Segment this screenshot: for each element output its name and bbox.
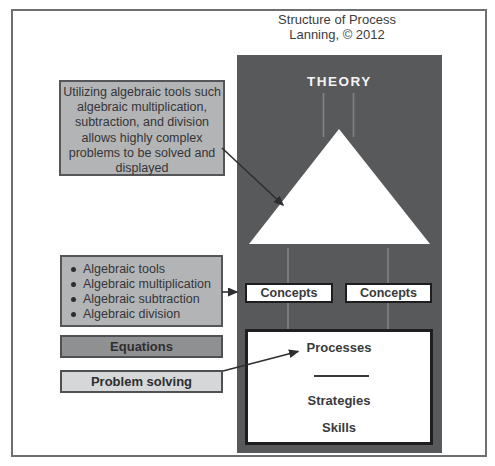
skills-label: Skills: [248, 420, 430, 435]
generalization-line: GENERALIZATION: [262, 214, 418, 228]
concepts-box-right: Concepts: [345, 283, 432, 303]
problem-solving-label: Problem solving: [91, 374, 192, 389]
concepts-left-label: Concepts: [261, 286, 318, 300]
callout-line-6: displayed: [61, 161, 223, 176]
bullet-icon: [71, 297, 76, 302]
bullet-icon: [71, 282, 76, 287]
algebra-bullet-list: Algebraic tools Algebraic multiplication…: [60, 255, 223, 327]
callout-line-4: allows highly complex: [61, 131, 223, 146]
principle-line: PRINCIPLE: [262, 200, 418, 214]
theory-label: THEORY: [237, 74, 442, 89]
list-item: Algebraic division: [71, 307, 221, 322]
process-box: Processes Strategies Skills: [245, 329, 433, 445]
callout-line-1: Utilizing algebraic tools such: [61, 85, 223, 100]
figure-title: Structure of Process Lanning, © 2012: [212, 12, 462, 42]
equations-bar: Equations: [60, 335, 223, 358]
callout-line-3: subtraction, and division: [61, 115, 223, 130]
algebra-callout-note: Utilizing algebraic tools such algebraic…: [59, 80, 225, 176]
callout-line-5: problems to be solved and: [61, 146, 223, 161]
problem-solving-bar: Problem solving: [60, 370, 223, 393]
bullet-text-3: Algebraic subtraction: [83, 292, 200, 307]
equations-label: Equations: [110, 339, 173, 354]
concepts-right-label: Concepts: [360, 286, 417, 300]
figure-title-line1: Structure of Process: [212, 12, 462, 27]
principle-generalization-label: PRINCIPLE GENERALIZATION: [262, 200, 418, 228]
strategies-label: Strategies: [248, 393, 430, 408]
list-item: Algebraic subtraction: [71, 292, 221, 307]
processes-label: Processes: [248, 340, 430, 355]
callout-line-2: algebraic multiplication,: [61, 100, 223, 115]
list-item: Algebraic tools: [71, 262, 221, 277]
figure-title-line2: Lanning, © 2012: [212, 27, 462, 42]
process-divider-line: [314, 375, 369, 377]
list-item: Algebraic multiplication: [71, 277, 221, 292]
bullet-text-4: Algebraic division: [83, 307, 180, 322]
bullet-text-1: Algebraic tools: [83, 262, 165, 277]
bullet-icon: [71, 312, 76, 317]
bullet-icon: [71, 267, 76, 272]
concepts-box-left: Concepts: [245, 283, 333, 303]
bullet-text-2: Algebraic multiplication: [83, 277, 211, 292]
diagram-canvas: Structure of Process Lanning, © 2012 THE…: [0, 0, 495, 466]
